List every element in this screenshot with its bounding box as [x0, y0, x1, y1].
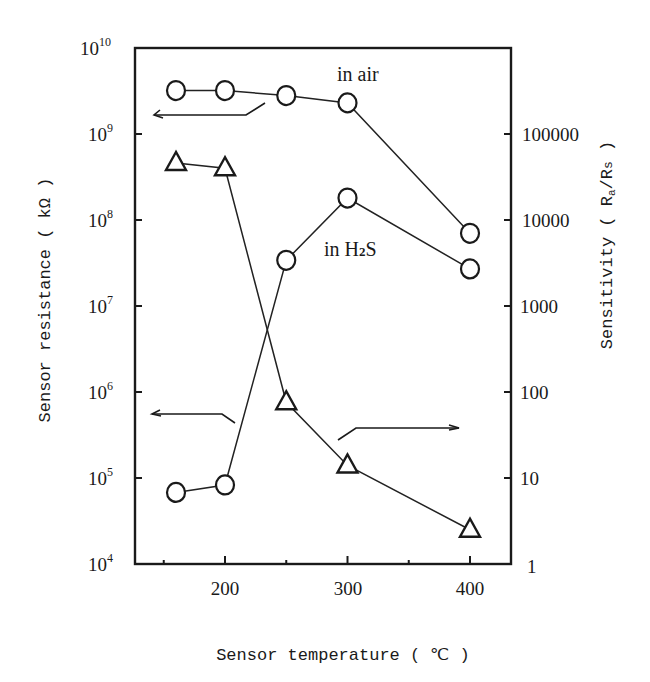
y-left-tick-labels: 1010 109 108 107 106 105 104: [80, 35, 113, 575]
svg-text:104: 104: [88, 551, 113, 575]
series-line: [176, 91, 470, 234]
data-series: [166, 81, 480, 537]
triangle-marker-icon: [215, 157, 235, 175]
svg-text:106: 106: [88, 379, 113, 403]
y-right-axis-title: Sensitivity ( Ra/Rs ): [598, 141, 618, 349]
svg-text:100: 100: [520, 382, 549, 403]
circle-marker-icon: [277, 86, 295, 105]
svg-text:200: 200: [211, 578, 240, 599]
svg-text:1: 1: [527, 556, 537, 577]
y-right-tick-labels: 100000 10000 1000 100 10 1: [520, 124, 579, 577]
svg-text:1010: 1010: [80, 35, 111, 59]
axis-ticks: [135, 48, 511, 564]
svg-text:108: 108: [88, 207, 113, 231]
x-axis-title: Sensor temperature ( ℃ ): [216, 646, 470, 665]
arrow-upper-left-icon: [154, 103, 265, 118]
arrow-right-icon: [338, 425, 459, 440]
svg-text:10000: 10000: [522, 210, 570, 231]
triangle-marker-icon: [460, 519, 480, 537]
circle-marker-icon: [277, 251, 295, 270]
circle-marker-icon: [339, 189, 357, 208]
arrow-lower-left-icon: [152, 410, 235, 423]
circle-marker-icon: [167, 81, 185, 100]
circle-marker-icon: [216, 81, 234, 100]
circle-marker-icon: [167, 483, 185, 502]
axes-box: [135, 48, 511, 564]
circle-marker-icon: [461, 259, 479, 278]
plot-frame: [135, 48, 511, 564]
triangle-marker-icon: [338, 454, 358, 472]
svg-text:300: 300: [334, 578, 363, 599]
svg-text:105: 105: [88, 465, 113, 489]
svg-text:109: 109: [88, 121, 113, 145]
annotation-in-air: in air: [337, 63, 379, 85]
svg-text:400: 400: [456, 578, 485, 599]
circle-marker-icon: [461, 224, 479, 243]
series-line: [176, 163, 470, 530]
series-sensitivity-ra-rs-: [166, 152, 480, 537]
svg-text:10: 10: [520, 468, 539, 489]
svg-text:1000: 1000: [520, 296, 558, 317]
series-in-air: [167, 81, 479, 243]
svg-text:107: 107: [88, 293, 113, 317]
svg-text:100000: 100000: [522, 124, 579, 145]
circle-marker-icon: [216, 475, 234, 494]
x-tick-labels: 200 300 400: [211, 578, 485, 599]
series-in-h2s: [167, 189, 479, 502]
annotation-in-h2s: in H2S: [324, 238, 377, 260]
triangle-marker-icon: [166, 152, 186, 170]
triangle-marker-icon: [276, 391, 296, 409]
series-line: [176, 198, 470, 492]
circle-marker-icon: [339, 93, 357, 112]
sensor-chart: 1010 109 108 107 106 105 104 100000 1000…: [0, 0, 650, 682]
y-left-axis-title: Sensor resistance ( kΩ ): [36, 178, 55, 423]
